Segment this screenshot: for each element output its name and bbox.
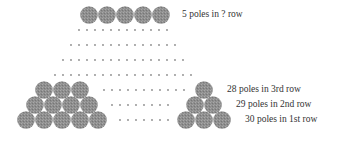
- poles-diagram: 5 poles in ? row 28 poles in 3rd row 29 …: [0, 0, 338, 145]
- pole-end-circle-icon: [80, 96, 98, 114]
- pole-end-circle-icon: [177, 111, 195, 129]
- dot-row-3: [62, 59, 184, 61]
- pole-end-circle-icon: [62, 96, 80, 114]
- dot-row-1: [78, 29, 168, 31]
- pole-end-circle-icon: [53, 111, 71, 129]
- pole-end-circle-icon: [89, 111, 107, 129]
- pole-end-circle-icon: [26, 96, 44, 114]
- left-stack-poles: [17, 81, 107, 129]
- row3-label: 28 poles in 3rd row: [227, 85, 301, 95]
- row1-label: 30 poles in 1st row: [245, 115, 317, 125]
- pole-end-circle-icon: [186, 96, 204, 114]
- dot-row-4: [54, 74, 192, 76]
- pole-end-circle-icon: [116, 6, 134, 24]
- pole-end-circle-icon: [80, 6, 98, 24]
- dot-row-3rd: [103, 89, 185, 91]
- pole-end-circle-icon: [195, 111, 213, 129]
- top-row-label: 5 poles in ? row: [182, 10, 243, 20]
- pole-end-circle-icon: [213, 111, 231, 129]
- dot-row-2: [70, 44, 176, 46]
- pole-end-circle-icon: [71, 111, 89, 129]
- pole-end-circle-icon: [134, 6, 152, 24]
- dot-row-1st: [119, 119, 169, 121]
- pole-end-circle-icon: [152, 6, 170, 24]
- pole-end-circle-icon: [53, 81, 71, 99]
- pole-end-circle-icon: [98, 6, 116, 24]
- pole-end-circle-icon: [35, 111, 53, 129]
- right-stack-poles: [177, 81, 231, 129]
- pole-end-circle-icon: [195, 81, 213, 99]
- pole-end-circle-icon: [71, 81, 89, 99]
- pole-end-circle-icon: [204, 96, 222, 114]
- pole-end-circle-icon: [44, 96, 62, 114]
- pole-end-circle-icon: [35, 81, 53, 99]
- pole-end-circle-icon: [17, 111, 35, 129]
- row2-label: 29 poles in 2nd row: [236, 100, 311, 110]
- top-row-poles: [80, 6, 170, 24]
- dot-row-2nd: [111, 104, 169, 106]
